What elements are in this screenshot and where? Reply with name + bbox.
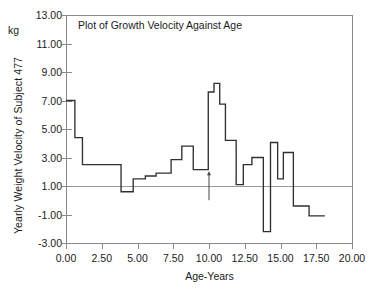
y-tick-label: 13.00 <box>14 10 62 20</box>
annotation-arrow-group <box>207 172 211 201</box>
y-axis-unit-label: kg <box>8 24 19 36</box>
x-tick-mark <box>173 244 174 249</box>
x-tick-mark <box>245 244 246 249</box>
x-tick-label: 20.00 <box>329 252 375 264</box>
x-axis-title: Age-Years <box>66 270 353 282</box>
x-tick-mark <box>102 244 103 249</box>
y-tick-label: -3.00 <box>14 238 62 248</box>
y-tick-label: 7.00 <box>14 96 62 106</box>
x-tick-mark <box>209 244 210 249</box>
y-tick-label: 5.00 <box>14 124 62 134</box>
x-tick-mark <box>352 244 353 249</box>
x-tick-mark <box>281 244 282 249</box>
y-tick-label: 9.00 <box>14 67 62 77</box>
y-tick-label: 1.00 <box>14 181 62 191</box>
step-series-plot <box>66 15 353 244</box>
x-tick-mark <box>138 244 139 249</box>
x-tick-mark <box>66 244 67 249</box>
growth-velocity-chart-figure: Yearly Weight Velocity of Subject 477 kg… <box>0 0 376 291</box>
chart-title: Plot of Growth Velocity Against Age <box>78 19 242 31</box>
growth-velocity-step-line <box>66 83 325 231</box>
x-tick-mark <box>316 244 317 249</box>
y-tick-label: 3.00 <box>14 153 62 163</box>
annotation-arrow-head <box>207 172 211 175</box>
y-tick-label: -1.00 <box>14 210 62 220</box>
y-tick-label: 11.00 <box>14 39 62 49</box>
